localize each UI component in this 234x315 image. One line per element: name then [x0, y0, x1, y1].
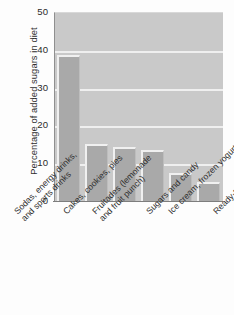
gridline-30 [55, 89, 223, 91]
y-tick-label-10: 10 [14, 157, 48, 168]
bar-chart-figure: Percentage of added sugars in diet 01020… [0, 0, 234, 315]
y-axis-title: Percentage of added sugars in diet [29, 1, 39, 201]
y-tick-label-40: 40 [14, 44, 48, 55]
y-tick-label-20: 20 [14, 119, 48, 130]
gridline-20 [55, 126, 223, 128]
y-tick-label-50: 50 [14, 6, 48, 17]
gridline-40 [55, 51, 223, 53]
y-tick-label-30: 30 [14, 82, 48, 93]
x-axis-category-labels: Sodas, energy drinks,and sports drinksCa… [0, 201, 234, 315]
